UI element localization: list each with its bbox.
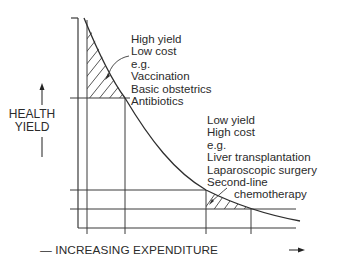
annotation-line: Antibiotics	[131, 95, 212, 107]
arrow-up-icon	[40, 83, 45, 90]
annotation-line: chemotherapy	[207, 188, 317, 200]
annotation-line: High yield	[131, 33, 212, 45]
annotation-line: Second-line	[207, 176, 317, 188]
low-yield-annotation: Low yield High cost e.g. Liver transplan…	[207, 114, 317, 201]
x-axis-label: — INCREASING EXPENDITURE	[40, 243, 338, 257]
annotation-line: e.g.	[207, 139, 317, 151]
annotation-line: Vaccination	[131, 70, 212, 82]
x-axis-dash: —	[40, 243, 52, 257]
annotation-line: High cost	[207, 126, 317, 138]
annotation-line: Low yield	[207, 114, 317, 126]
annotation-line: Basic obstetrics	[131, 83, 212, 95]
x-axis-label-text: INCREASING EXPENDITURE	[55, 243, 218, 257]
annotation-line: Laparoscopic surgery	[207, 164, 317, 176]
high-yield-annotation: High yield Low cost e.g. Vaccination Bas…	[131, 33, 212, 107]
annotation-line: Low cost	[131, 45, 212, 57]
annotation-line: Liver transplantation	[207, 151, 317, 163]
y-axis-label-line2: YIELD	[4, 121, 60, 134]
y-axis-label: HEALTH YIELD	[4, 108, 60, 134]
annotation-line: e.g.	[131, 58, 212, 70]
